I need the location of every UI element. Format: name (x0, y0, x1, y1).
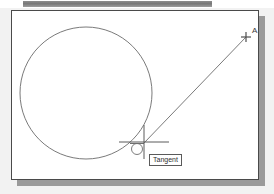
circle-entity[interactable] (20, 27, 152, 159)
point-a-label: A (252, 26, 257, 35)
cad-drawing-svg (12, 11, 258, 179)
drawing-canvas-panel[interactable]: A Tangent (11, 10, 259, 180)
tangent-line-entity[interactable] (144, 37, 246, 143)
screenshot-root: A Tangent (0, 0, 274, 194)
tangent-osnap-tooltip: Tangent (149, 154, 182, 166)
toolbar-strip (23, 1, 212, 7)
tangent-osnap-marker-icon (130, 144, 144, 155)
